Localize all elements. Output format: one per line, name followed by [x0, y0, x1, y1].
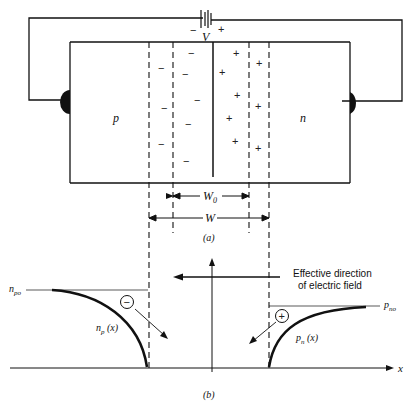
- svg-text:+: +: [233, 47, 239, 59]
- depletion-boundaries: [149, 42, 269, 372]
- svg-text:−: −: [158, 138, 164, 150]
- x-axis-arrow-icon: [386, 365, 394, 371]
- hole-arrow-head-icon: [249, 336, 257, 344]
- svg-text:+: +: [279, 310, 285, 322]
- electron-icon: −: [121, 296, 134, 309]
- svg-text:−: −: [161, 102, 167, 114]
- w0-label: W0: [203, 189, 217, 205]
- n-region-label: n: [300, 111, 306, 125]
- svg-text:−: −: [188, 47, 194, 59]
- svg-text:−: −: [158, 62, 164, 74]
- svg-text:+: +: [234, 89, 240, 101]
- pno-label: pno: [383, 299, 397, 313]
- field-label-line2: of electric field: [298, 280, 362, 291]
- battery-neg-sign: −: [190, 24, 196, 36]
- pn-junction-diagram: − + V p n − − − − − − − − + + + + + +: [0, 0, 412, 408]
- svg-text:−: −: [182, 68, 188, 80]
- svg-text:+: +: [255, 100, 261, 112]
- svg-text:+: +: [256, 57, 262, 69]
- pn-curve-label: pn (x): [295, 332, 319, 346]
- battery-pos-sign: +: [218, 23, 224, 35]
- x-axis-label: x: [397, 362, 403, 374]
- np-curve-label: np (x): [96, 322, 119, 336]
- svg-text:+: +: [226, 112, 232, 124]
- battery-icon: [201, 10, 211, 28]
- svg-text:+: +: [232, 135, 238, 147]
- semiconductor-block: [70, 42, 350, 183]
- svg-text:−: −: [124, 296, 130, 308]
- negative-charges: − − − − − − − −: [158, 47, 200, 167]
- hole-icon: +: [276, 310, 289, 323]
- y-axis-arrow-icon: [209, 258, 215, 266]
- field-label-line1: Effective direction: [293, 268, 372, 279]
- figure-b-caption: (b): [203, 389, 215, 401]
- w-label: W: [205, 211, 216, 225]
- figure-a-caption: (a): [203, 232, 215, 244]
- svg-text:−: −: [185, 118, 191, 130]
- n-contact: [350, 92, 356, 114]
- positive-charges: + + + + + + + +: [219, 47, 262, 154]
- hole-drift-arrow: [253, 322, 276, 341]
- svg-text:+: +: [219, 66, 225, 78]
- field-arrow-head-icon: [173, 274, 183, 281]
- p-contact: [60, 90, 70, 114]
- svg-text:+: +: [255, 142, 261, 154]
- circuit-wire: [29, 18, 402, 101]
- svg-text:−: −: [194, 94, 200, 106]
- npo-label: npo: [9, 283, 22, 297]
- svg-text:−: −: [183, 155, 189, 167]
- p-region-label: p: [112, 111, 119, 125]
